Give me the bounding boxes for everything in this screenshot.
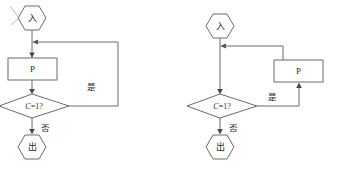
right-entry-node: 入 bbox=[206, 14, 234, 38]
left-process-node: P bbox=[8, 58, 57, 80]
flowchart-figure: 入 P C=1? 是 bbox=[0, 0, 339, 174]
right-edge-yes-to-process bbox=[257, 84, 299, 106]
right-entry-label: 入 bbox=[216, 21, 225, 31]
left-decision-rest: =1? bbox=[31, 101, 44, 110]
left-entry-node: 入 bbox=[18, 6, 46, 30]
right-process-label: P bbox=[296, 66, 301, 76]
right-flowchart: 入 C=1? 是 P bbox=[187, 14, 323, 159]
flowchart-canvas: 入 P C=1? 是 bbox=[0, 0, 339, 174]
scan-smudge bbox=[10, 6, 19, 25]
right-edge-label-no: 否 bbox=[229, 123, 238, 133]
left-arrow-into-exit bbox=[29, 129, 35, 135]
left-process-label: P bbox=[30, 64, 35, 74]
left-decision-node: C=1? bbox=[0, 94, 69, 118]
right-exit-label: 出 bbox=[216, 141, 225, 152]
left-decision-label: C=1? bbox=[25, 101, 43, 110]
left-edge-label-no: 否 bbox=[41, 123, 50, 133]
left-flowchart: 入 P C=1? 是 bbox=[0, 6, 118, 159]
right-decision-node: C=1? bbox=[187, 94, 257, 118]
left-exit-label: 出 bbox=[28, 141, 37, 152]
left-edge-label-yes: 是 bbox=[87, 82, 96, 92]
right-edge-process-loopback bbox=[221, 46, 283, 60]
right-edge-label-yes: 是 bbox=[268, 92, 277, 102]
left-entry-label: 入 bbox=[28, 13, 37, 23]
right-arrow-into-exit bbox=[217, 129, 223, 135]
right-decision-label: C=1? bbox=[213, 101, 231, 110]
right-exit-node: 出 bbox=[206, 135, 234, 159]
right-arrow-into-process bbox=[296, 83, 302, 89]
right-process-node: P bbox=[274, 60, 323, 82]
right-decision-rest: =1? bbox=[219, 101, 232, 110]
left-arrow-into-process bbox=[29, 53, 35, 59]
left-exit-node: 出 bbox=[18, 135, 46, 159]
